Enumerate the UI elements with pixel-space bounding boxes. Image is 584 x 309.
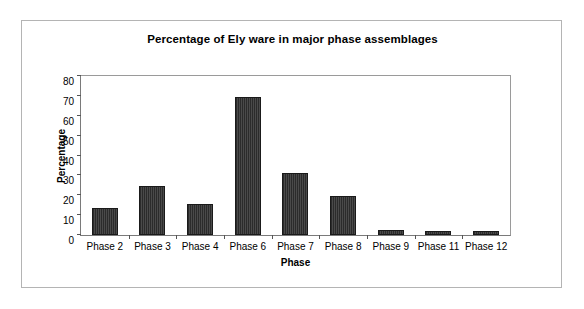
x-axis-tick [367,235,368,239]
x-axis-tick [224,235,225,239]
x-axis-tick [176,235,177,239]
bar[interactable] [139,186,165,235]
bar-group: Phase 4 [176,76,224,235]
bar[interactable] [378,230,404,235]
x-axis-tick-label: Phase 8 [325,241,362,252]
bar[interactable] [92,208,118,235]
bar[interactable] [473,231,499,235]
x-axis-title: Phase [81,257,510,268]
bar-group: Phase 8 [319,76,367,235]
x-axis-tick [272,235,273,239]
x-axis-tick [415,235,416,239]
bar-group: Phase 9 [367,76,415,235]
x-axis-tick-label: Phase 11 [418,241,460,252]
bar-group: Phase 7 [272,76,320,235]
bar-group: Phase 11 [415,76,463,235]
bar[interactable] [235,97,261,235]
plot-area: Percentage 01020304050607080 Phase 2Phas… [80,75,511,236]
bar[interactable] [425,231,451,235]
x-axis-tick-label: Phase 2 [86,241,123,252]
x-axis-tick-label: Phase 3 [134,241,171,252]
bar[interactable] [330,196,356,235]
bar-group: Phase 3 [129,76,177,235]
chart-frame: Percentage of Ely ware in major phase as… [21,20,562,288]
bar[interactable] [187,204,213,235]
bar-group: Phase 12 [462,76,510,235]
chart-title: Percentage of Ely ware in major phase as… [22,33,563,45]
bar-group: Phase 2 [81,76,129,235]
bar-group: Phase 6 [224,76,272,235]
x-axis-tick-label: Phase 7 [277,241,314,252]
x-axis-tick [319,235,320,239]
x-axis-tick-label: Phase 4 [182,241,219,252]
bar-series: Phase 2Phase 3Phase 4Phase 6Phase 7Phase… [81,76,510,235]
bar[interactable] [282,173,308,235]
x-axis-tick-label: Phase 12 [465,241,507,252]
x-axis-tick-label: Phase 6 [229,241,266,252]
x-axis-tick [129,235,130,239]
x-axis-tick [462,235,463,239]
x-axis-tick-label: Phase 9 [372,241,409,252]
